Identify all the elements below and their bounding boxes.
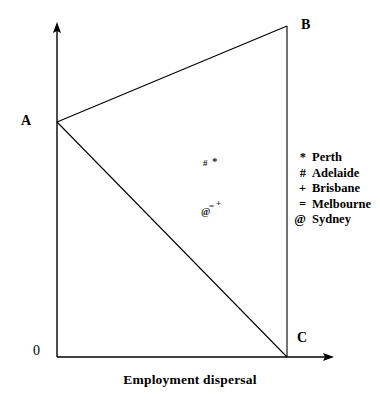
legend: * Perth # Adelaide + Brisbane = Melbourn… (289, 150, 377, 228)
vertex-label-b: B (301, 18, 310, 32)
vertex-label-a: A (21, 114, 31, 128)
legend-symbol-perth: * (289, 150, 306, 166)
legend-symbol-sydney: @ (289, 212, 306, 228)
legend-label-brisbane: Brisbane (306, 181, 360, 197)
legend-item-adelaide: # Adelaide (289, 166, 377, 182)
legend-label-perth: Perth (306, 150, 342, 166)
x-axis-title: Employment dispersal (0, 372, 380, 388)
legend-label-adelaide: Adelaide (306, 166, 359, 182)
vertex-label-c: C (297, 331, 307, 345)
data-point-adelaide: # (203, 159, 208, 168)
data-point-brisbane: + (216, 199, 221, 208)
legend-label-melbourne: Melbourne (306, 197, 371, 213)
data-point-perth: * (212, 157, 218, 166)
legend-item-brisbane: + Brisbane (289, 181, 377, 197)
legend-item-sydney: @ Sydney (289, 212, 377, 228)
data-point-melbourne: = (209, 202, 214, 211)
axis-origin-label: 0 (33, 344, 40, 358)
legend-symbol-brisbane: + (289, 181, 306, 197)
legend-symbol-adelaide: # (289, 166, 306, 182)
employment-dispersal-diagram: A B C 0 # * @ = + * Perth # Adelaide + B… (0, 0, 380, 401)
legend-item-perth: * Perth (289, 150, 377, 166)
legend-label-sydney: Sydney (306, 212, 351, 228)
segment-ab (57, 26, 287, 122)
segment-ac (57, 122, 287, 357)
legend-item-melbourne: = Melbourne (289, 197, 377, 213)
legend-symbol-melbourne: = (289, 197, 306, 213)
